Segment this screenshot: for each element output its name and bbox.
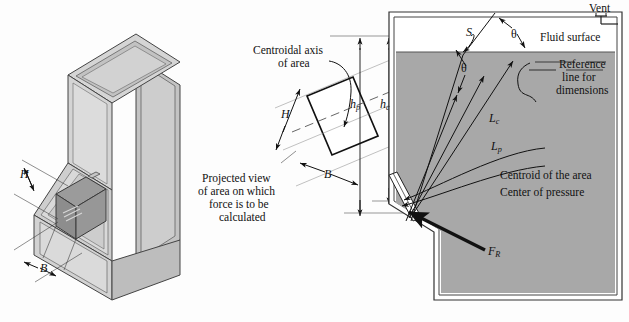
centroid-of-area-label: Centroid of the area bbox=[500, 169, 592, 182]
resultant-force-subscript: R bbox=[495, 250, 500, 259]
reference-line-label-line2: line for bbox=[562, 71, 596, 84]
iso-width-label: B bbox=[40, 262, 47, 275]
slant-to-centroid-symbol: L bbox=[489, 111, 496, 125]
center-of-pressure-label: Center of pressure bbox=[500, 186, 584, 199]
slant-to-centroid-subscript: c bbox=[496, 117, 500, 126]
angle-theta-upper-label: θ bbox=[511, 28, 517, 41]
centroidal-axis-label-line1: Centroidal axis bbox=[253, 44, 323, 57]
resultant-force-label: FR bbox=[488, 245, 500, 259]
slant-to-pressure-subscript: p bbox=[498, 145, 502, 154]
surface-distance-label: S bbox=[466, 26, 472, 39]
projected-height-label: H bbox=[281, 108, 290, 121]
projected-width-label: B bbox=[324, 168, 331, 181]
projected-view-label-line4: calculated bbox=[219, 211, 266, 224]
slant-to-pressure-symbol: L bbox=[491, 139, 498, 153]
reference-line-label-line3: dimensions bbox=[556, 84, 608, 97]
iso-height-label: H bbox=[20, 168, 29, 181]
vent-pipe-icon bbox=[588, 12, 622, 28]
slant-to-centroid-label: Lc bbox=[489, 112, 499, 126]
depth-to-centroid-label: hc bbox=[380, 98, 390, 112]
depth-to-pressure-label: hp bbox=[350, 98, 360, 112]
fluid-surface-label: Fluid surface bbox=[540, 31, 600, 44]
tank-cross-section bbox=[389, 12, 622, 300]
centroidal-axis-label-line2: of area bbox=[278, 57, 310, 70]
figure-canvas: H B Centroidal axis of area Projected vi… bbox=[0, 0, 629, 322]
isometric-tank bbox=[14, 34, 180, 300]
angle-theta-lower-label: θ bbox=[461, 62, 467, 75]
depth-to-centroid-subscript: c bbox=[386, 103, 390, 112]
slant-to-pressure-label: Lp bbox=[491, 140, 502, 154]
projected-view-label-line2: of area on which bbox=[198, 185, 275, 198]
projected-view-label-line1: Projected view bbox=[202, 172, 271, 185]
projected-view-label-line3: force is to be bbox=[209, 198, 269, 211]
depth-to-pressure-subscript: p bbox=[356, 103, 360, 112]
reference-line-label-line1: Reference bbox=[559, 58, 606, 71]
